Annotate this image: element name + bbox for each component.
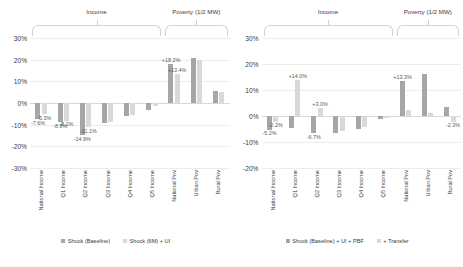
data-label: +13.4%	[168, 67, 186, 73]
y-axis-tick: -20%	[12, 143, 27, 150]
x-axis-tick-label: Urban Pov	[425, 170, 431, 196]
bar	[213, 91, 218, 103]
bar-series-container: -5.2%-2.2%+14.0%-6.7%+3.0%+13.3%-2.3%	[262, 38, 462, 168]
bar	[333, 116, 338, 133]
y-axis-tick: -20%	[243, 165, 258, 172]
plot-area: 30%20%10%0%-10%-20%-30%-7.6%-5.3%-8.8%-8…	[0, 38, 232, 168]
bar	[197, 60, 202, 103]
x-axis-tick-label: Q4 Income	[127, 170, 133, 197]
y-axis: 30%20%10%0%-10%-20%-30%	[0, 38, 30, 168]
y-axis-tick: 0%	[249, 113, 259, 120]
bar	[146, 103, 151, 110]
x-axis-categories: National IncomeQ1 IncomeQ2 IncomeQ3 Inco…	[30, 170, 230, 232]
gridline	[30, 168, 230, 169]
bar	[102, 103, 107, 123]
data-label: +13.3%	[393, 74, 411, 80]
bar	[219, 92, 224, 103]
data-label: -8.2%	[59, 121, 73, 127]
bar	[295, 80, 300, 116]
x-axis-tick-label: National Income	[270, 170, 276, 210]
y-axis-tick: 30%	[245, 35, 258, 42]
data-label: -6.7%	[307, 134, 321, 140]
bar	[340, 116, 345, 131]
bar	[175, 74, 180, 103]
bar	[86, 103, 91, 127]
legend-label: Shock (Baseline)	[68, 238, 110, 244]
bar	[289, 116, 294, 128]
x-axis-tick-label: Urban Pov	[193, 170, 199, 196]
legend-label: Shock (Baseline) + UI + PBF	[292, 238, 364, 244]
legend-item[interactable]: Shock (6M) + UI	[123, 238, 170, 244]
x-axis-tick-label: Q3 Income	[105, 170, 111, 197]
bar	[124, 103, 129, 116]
legend-label: + Transfer	[383, 238, 408, 244]
bar	[406, 110, 411, 116]
bracket-arc	[397, 25, 460, 36]
gridline	[262, 168, 462, 169]
x-axis-tick-label: National Income	[38, 170, 44, 210]
bar	[444, 107, 449, 116]
bar	[428, 113, 433, 116]
chart-legend: Shock (Baseline)Shock (6M) + UI	[0, 238, 232, 244]
y-axis-tick: 30%	[14, 35, 27, 42]
x-axis-tick-label: Q3 Income	[336, 170, 342, 197]
x-axis-tick-label: Q5 Income	[380, 170, 386, 197]
legend-item[interactable]: Shock (Baseline)	[61, 238, 110, 244]
x-axis-tick-label: Q1 Income	[292, 170, 298, 197]
bar	[42, 103, 47, 114]
y-axis-tick: -10%	[243, 139, 258, 146]
bracket-arc	[264, 25, 393, 36]
x-axis-tick-label: Q2 Income	[314, 170, 320, 197]
data-label: -5.3%	[37, 115, 51, 121]
data-label: +3.0%	[312, 101, 327, 107]
legend-swatch-icon	[286, 239, 290, 243]
y-axis-tick: -10%	[12, 121, 27, 128]
legend-item[interactable]: + Transfer	[377, 238, 409, 244]
x-axis-tick-label: Q2 Income	[82, 170, 88, 197]
data-label: -11.1%	[80, 128, 97, 134]
y-axis-tick: 20%	[245, 61, 258, 68]
x-axis-tick-label: National Pov	[171, 170, 177, 202]
group-label-income: Income	[86, 8, 106, 15]
group-label-poverty: Poverty (1/2 MW)	[172, 8, 220, 15]
group-label-poverty: Poverty (1/2 MW)	[404, 8, 452, 15]
chart-panel-left: IncomePoverty (1/2 MW)30%20%10%0%-10%-20…	[0, 0, 232, 267]
bar	[378, 116, 383, 119]
data-label: -2.3%	[446, 122, 460, 128]
legend-swatch-icon	[377, 239, 381, 243]
x-axis-tick-label: Q1 Income	[60, 170, 66, 197]
bar	[191, 58, 196, 104]
x-axis-tick-label: National Pov	[403, 170, 409, 202]
bar	[362, 116, 367, 127]
bar	[64, 103, 69, 121]
legend-swatch-icon	[123, 239, 127, 243]
data-label: +18.2%	[162, 57, 180, 63]
x-axis-tick-label: Rural Pov	[215, 170, 221, 195]
x-axis-tick-label: Q5 Income	[149, 170, 155, 197]
y-axis: 30%20%10%0%-10%-20%	[232, 38, 262, 168]
y-axis-tick: 20%	[14, 56, 27, 63]
x-axis-tick-label: Q4 Income	[358, 170, 364, 197]
bar	[273, 116, 278, 122]
bracket-arc	[32, 25, 161, 36]
y-axis-tick: 10%	[245, 87, 258, 94]
legend-item[interactable]: Shock (Baseline) + UI + PBF	[286, 238, 364, 244]
bar	[400, 81, 405, 116]
bar	[451, 116, 456, 122]
bracket-arc	[165, 25, 228, 36]
chart-panel-right: IncomePoverty (1/2 MW)30%20%10%0%-10%-20…	[232, 0, 463, 267]
x-axis-categories: National IncomeQ1 IncomeQ2 IncomeQ3 Inco…	[262, 170, 462, 232]
bar	[153, 103, 158, 106]
bar	[356, 116, 361, 129]
bar	[318, 108, 323, 116]
bar	[384, 116, 389, 118]
data-label: -5.2%	[262, 130, 276, 136]
legend-swatch-icon	[61, 239, 65, 243]
group-label-income: Income	[318, 8, 338, 15]
bar	[422, 74, 427, 116]
x-axis-tick-label: Rural Pov	[447, 170, 453, 195]
bar	[58, 103, 63, 122]
bar	[108, 103, 113, 122]
y-axis-tick: 0%	[17, 100, 27, 107]
chart-legend: Shock (Baseline) + UI + PBF+ Transfer	[232, 238, 463, 244]
